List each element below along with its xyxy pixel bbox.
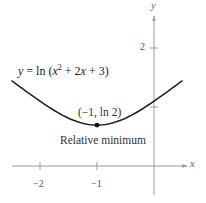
- function-curve: [12, 81, 183, 125]
- relative-minimum-point: [95, 123, 100, 128]
- equation-label: y = ln (x2 + 2x + 3): [18, 63, 109, 79]
- minimum-point-label: (−1, ln 2): [78, 106, 121, 118]
- equation-exponent: 2: [58, 63, 62, 72]
- y-tick-label-2: 2: [140, 41, 145, 52]
- x-axis-label: x: [190, 158, 195, 169]
- x-tick-label-neg2: −2: [33, 178, 44, 189]
- chart-plot-area: [0, 0, 206, 203]
- relative-minimum-label: Relative minimum: [60, 134, 146, 146]
- x-tick-label-neg1: −1: [91, 178, 102, 189]
- y-axis-label: y: [151, 0, 156, 11]
